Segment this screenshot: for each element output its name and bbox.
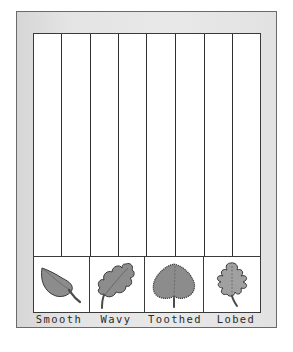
toothed-leaf-icon [148, 260, 200, 310]
leaf-cell-smooth [34, 257, 90, 312]
label-wavy: Wavy [90, 312, 142, 326]
grid-column-divider [232, 34, 233, 256]
grid-column-divider [61, 34, 62, 256]
wavy-leaf-icon [92, 260, 142, 310]
label-lobed: Lobed [208, 312, 264, 326]
grid-column-divider [146, 34, 147, 256]
label-smooth: Smooth [28, 312, 90, 326]
grid-column-divider [204, 34, 205, 256]
label-toothed: Toothed [142, 312, 208, 326]
leaf-cell-lobed [204, 257, 261, 312]
leaf-cell-toothed [145, 257, 203, 312]
lobed-leaf-icon [207, 260, 257, 310]
grid-column-divider [90, 34, 91, 256]
leaf-type-labels: Smooth Wavy Toothed Lobed [28, 312, 264, 326]
grid-column-divider [175, 34, 176, 256]
leaf-picture-row [33, 256, 261, 313]
bar-graph-grid [33, 33, 261, 257]
smooth-leaf-icon [36, 260, 86, 310]
grid-column-divider [118, 34, 119, 256]
leaf-cell-wavy [90, 257, 146, 312]
